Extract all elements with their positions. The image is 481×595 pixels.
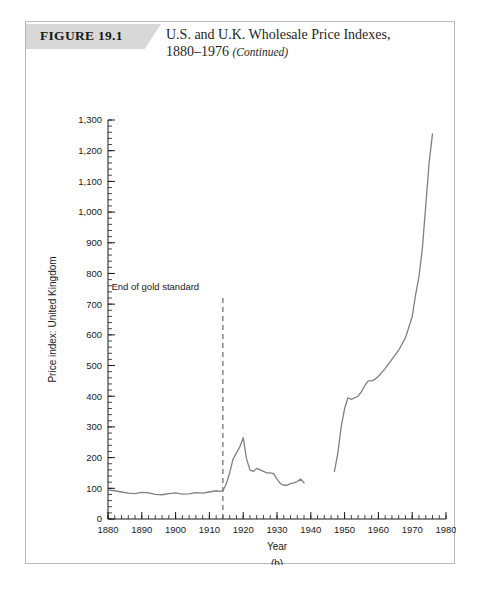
- annotation-label: End of gold standard: [111, 281, 199, 292]
- y-axis-tick-label: 200: [86, 452, 102, 463]
- x-axis-tick-label: 1890: [131, 524, 152, 535]
- panel-label: (b): [271, 558, 283, 565]
- x-axis-tick-label: 1930: [266, 524, 287, 535]
- x-axis-tick-label: 1940: [300, 524, 321, 535]
- y-axis-title: Price index: United Kingdom: [47, 256, 58, 382]
- y-axis-tick-label: 1,200: [78, 145, 102, 156]
- figure-container: FIGURE 19.1 U.S. and U.K. Wholesale Pric…: [25, 21, 455, 564]
- chart-plot-area: 01002003004005006007008009001,0001,1001,…: [26, 68, 456, 565]
- y-axis-tick-label: 100: [86, 483, 102, 494]
- y-axis-tick-label: 1,100: [78, 176, 102, 187]
- figure-title-line2: 1880–1976: [166, 44, 229, 59]
- y-axis-tick-label: 900: [86, 237, 102, 248]
- y-axis-tick-label: 500: [86, 360, 102, 371]
- y-axis-tick-label: 400: [86, 391, 102, 402]
- x-axis-tick-label: 1980: [435, 524, 456, 535]
- y-axis-tick-label: 700: [86, 299, 102, 310]
- figure-header: FIGURE 19.1 U.S. and U.K. Wholesale Pric…: [26, 22, 454, 68]
- y-axis-tick-label: 800: [86, 268, 102, 279]
- data-line-1880-1938: [108, 438, 304, 495]
- price-index-line-chart: 01002003004005006007008009001,0001,1001,…: [26, 68, 456, 565]
- x-axis-title: Year: [267, 541, 288, 552]
- x-axis-tick-label: 1950: [334, 524, 355, 535]
- x-axis-tick-label: 1970: [402, 524, 423, 535]
- y-axis-tick-label: 1,300: [78, 114, 102, 125]
- x-axis-tick-label: 1880: [97, 524, 118, 535]
- x-axis-tick-label: 1920: [233, 524, 254, 535]
- figure-title-line1: U.S. and U.K. Wholesale Price Indexes,: [166, 27, 390, 42]
- figure-label: FIGURE 19.1: [40, 28, 123, 44]
- y-axis-tick-label: 1,000: [78, 206, 102, 217]
- data-line-1947-1976: [334, 134, 432, 472]
- x-axis-tick-label: 1960: [368, 524, 389, 535]
- y-axis-tick-label: 0: [97, 513, 102, 524]
- x-axis-tick-label: 1910: [199, 524, 220, 535]
- figure-title-continued: (Continued): [233, 46, 289, 58]
- x-axis-tick-label: 1900: [165, 524, 186, 535]
- y-axis-tick-label: 600: [86, 329, 102, 340]
- y-axis-tick-label: 300: [86, 421, 102, 432]
- figure-title: U.S. and U.K. Wholesale Price Indexes, 1…: [166, 26, 446, 61]
